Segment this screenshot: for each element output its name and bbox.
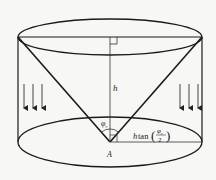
- diagram-canvas: h φr A h tan ( φr 2 ): [0, 0, 216, 180]
- svg-text:h: h: [133, 131, 137, 141]
- radius-expression: h tan ( φr 2 ): [133, 127, 170, 144]
- apex-label: A: [106, 150, 112, 159]
- right-arrows: [180, 84, 198, 108]
- svg-text:tan: tan: [138, 131, 149, 141]
- svg-text:): ): [166, 128, 170, 143]
- angle-label: φr: [101, 119, 107, 129]
- right-angle-marker-top: [110, 37, 117, 44]
- svg-text:(: (: [151, 128, 155, 143]
- cylinder-cone-diagram: h φr A h tan ( φr 2 ): [0, 0, 216, 180]
- left-arrows: [24, 84, 42, 108]
- svg-text:φr: φr: [157, 127, 163, 136]
- height-label: h: [113, 83, 118, 93]
- svg-text:2: 2: [158, 136, 162, 144]
